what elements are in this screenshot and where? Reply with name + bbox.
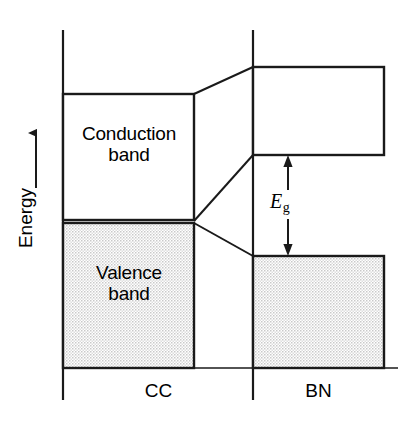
- energy-axis-label: Energy: [15, 163, 37, 273]
- x-axis-tick-label-bn: BN: [253, 380, 384, 402]
- bn-valence-band-block: [253, 256, 384, 368]
- band-gap-subscript: g: [282, 200, 290, 215]
- band-gap-arrowhead-up: [283, 155, 292, 167]
- cc-conduction-band-label: Conduction band: [64, 123, 194, 165]
- bn-conduction-band-block: [253, 67, 384, 155]
- connector-conduction-bottom: [194, 155, 253, 221]
- band-gap-symbol: E: [270, 190, 282, 212]
- x-axis-tick-label-cc: CC: [63, 380, 254, 402]
- band-diagram-canvas: [0, 0, 408, 421]
- cc-valence-band-label: Valence band: [64, 262, 194, 304]
- connector-valence-top: [194, 223, 253, 256]
- interface-connector-lines: [194, 67, 253, 256]
- band-diagram-figure: Conduction band Valence band CC BN Energ…: [0, 0, 408, 421]
- connector-conduction-top: [194, 67, 253, 94]
- band-gap-arrowhead-down: [283, 244, 292, 256]
- band-gap-label: Eg: [268, 190, 292, 219]
